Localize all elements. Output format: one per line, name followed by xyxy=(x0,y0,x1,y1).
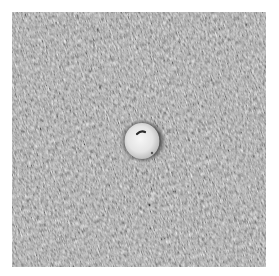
particle xyxy=(120,119,166,163)
bead-speck xyxy=(151,152,153,154)
white-bead xyxy=(125,123,160,159)
texture-photo xyxy=(12,12,266,267)
texture-canvas xyxy=(12,12,266,267)
